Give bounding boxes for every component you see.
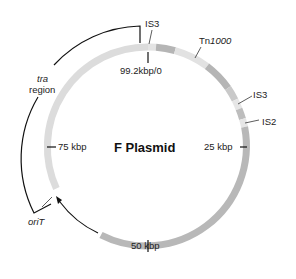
feature-label-is3-top: IS3 — [145, 18, 159, 29]
orit-transfer-arrow — [60, 202, 98, 233]
tick-label-25: 25 kbp — [204, 141, 233, 152]
region-label: region — [29, 84, 55, 95]
leader-is3-right — [238, 96, 252, 104]
feature-label-orit: oriT — [28, 216, 46, 227]
f-plasmid-map: 99.2kbp/0 25 kbp 50 kbp 75 kbp F Plasmid… — [0, 0, 296, 279]
tick-label-50: 50 kbp — [131, 240, 160, 251]
ring-segment-is2 — [243, 119, 245, 127]
feature-label-is3-right: IS3 — [253, 89, 267, 100]
tn-prefix: Tn — [199, 35, 210, 46]
ring-segment-dark-2 — [207, 66, 228, 88]
ring-segment-light-2 — [228, 88, 235, 100]
feature-label-is2: IS2 — [262, 116, 276, 127]
ring-segment-dark-1 — [156, 47, 175, 50]
ring-segment-tn1000 — [175, 51, 207, 67]
tick-label-75: 75 kbp — [58, 141, 87, 152]
feature-leaders — [42, 30, 259, 207]
feature-label-tn1000: Tn1000 — [199, 35, 232, 46]
tra-label: tra — [37, 73, 48, 84]
leader-tn1000 — [195, 47, 201, 58]
ring-segment-grey-3 — [239, 109, 243, 119]
tick-label-0: 99.2kbp/0 — [120, 65, 162, 76]
leader-is3-top — [149, 30, 152, 44]
leader-is2 — [245, 120, 259, 123]
ring-segment-is3-right — [235, 100, 239, 109]
plasmid-title: F Plasmid — [114, 140, 175, 155]
tn-number: 1000 — [210, 35, 232, 46]
